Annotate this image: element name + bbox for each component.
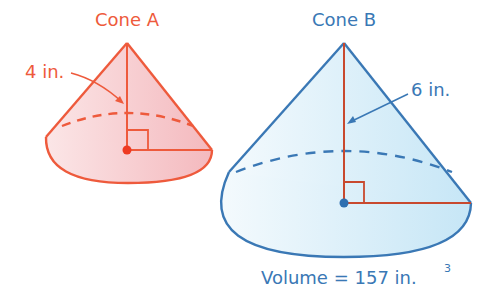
cone-a-height-label: 4 in. <box>25 61 64 82</box>
cone-a-center-dot <box>123 146 132 155</box>
cone-a-title: Cone A <box>95 9 160 30</box>
cone-b-volume-label: Volume = 157 in. <box>261 267 417 288</box>
cones-diagram: Cone A 4 in. Cone B 6 in. Volume = 157 i… <box>0 0 493 301</box>
cone-b-title: Cone B <box>312 9 376 30</box>
cone-b-height-label: 6 in. <box>411 79 450 100</box>
cone-b <box>221 43 471 257</box>
cone-a <box>45 43 212 183</box>
cone-b-volume-exponent: 3 <box>444 262 451 275</box>
cone-b-center-dot <box>340 199 349 208</box>
